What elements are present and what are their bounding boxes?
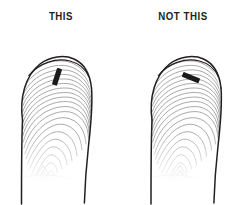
panel-label-not-this: NOT THIS [129, 10, 236, 23]
panel-incorrect-example: NOT THIS [122, 0, 244, 205]
ridge-fade-mask [122, 28, 244, 205]
fingertip-illustration-correct [0, 28, 122, 205]
illustration-canvas: THIS [0, 0, 244, 205]
fingerprint-ridges [122, 28, 244, 205]
fingerprint-ridges [0, 28, 122, 205]
panel-correct-example: THIS [0, 0, 122, 205]
fingertip-illustration-incorrect [122, 28, 244, 205]
ridge-fade-mask [0, 28, 122, 205]
panel-label-this: THIS [7, 10, 114, 23]
